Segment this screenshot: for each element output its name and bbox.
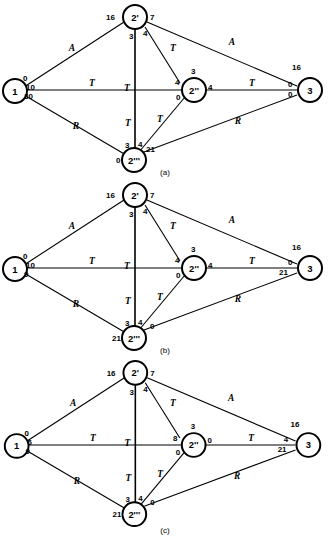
edge-label-n2ppp-n3: R (234, 294, 241, 304)
edge-label-n1-n2pp: T (89, 78, 96, 88)
num-n3-left-lower: 0 (288, 90, 293, 99)
num-n2p-below-left: 3 (129, 32, 134, 41)
num-n3-top: 16 (292, 243, 301, 252)
num-n1-mid: 10 (26, 83, 35, 92)
edge-n2p-n2pp (145, 27, 180, 83)
node-2p-label: 2' (132, 367, 139, 378)
edge-label-n2p-n3: A (228, 215, 235, 225)
edge-label-n1-n2p: A (69, 398, 76, 408)
edge-label-n2ppp-n2pp-vert: T (125, 118, 132, 128)
edge-n1-n2p (24, 22, 124, 87)
num-n2ppp-above-left: 3 (125, 319, 130, 328)
edge-label-n2ppp-n3: R (233, 471, 240, 481)
edge-label-n2pp-n3: T (249, 256, 256, 266)
edge-label-n1-n2ppp: R (72, 121, 79, 131)
edge-label-n2pp-n3: T (249, 78, 256, 88)
num-n2pp-bottom-left: 0 (176, 448, 181, 457)
panel-c: 1 2' 2'' 2''' 3 A T R A T T T T T R 0 6 … (0, 356, 330, 534)
num-n1-bottom: 30 (24, 92, 33, 101)
num-n2p-right: 7 (150, 191, 155, 200)
num-n2pp-top: 3 (191, 422, 196, 431)
edge-n2p-n3 (147, 200, 297, 264)
num-n2ppp-above-left: 3 (125, 495, 130, 504)
num-n2pp-bottom-left: 0 (176, 93, 181, 102)
node-2ppp-label: 2''' (128, 333, 140, 344)
num-n1-top: 0 (25, 429, 30, 438)
num-n2pp-left: 4 (175, 256, 180, 265)
panel-a-caption: (a) (0, 168, 330, 177)
num-n1-mid: 10 (26, 261, 35, 270)
node-3-label: 3 (306, 439, 311, 450)
edge-n1-n2p (26, 378, 125, 442)
edge-label-n2ppp-n2pp-vert: T (126, 473, 133, 483)
edge-label-n2p-n2pp: T (170, 398, 177, 408)
edge-n2ppp-n2pp (139, 452, 184, 506)
num-n2pp-left: 4 (175, 78, 180, 87)
num-n2p-left: 16 (106, 191, 115, 200)
node-3-label: 3 (307, 263, 312, 274)
edge-label-n1-n2p: A (68, 43, 75, 53)
num-n2pp-top: 3 (191, 245, 196, 254)
panel-b-caption: (b) (0, 346, 330, 355)
num-n2p-below-right: 4 (143, 385, 148, 394)
edge-n2p-n2pp (145, 383, 180, 438)
num-n2p-left: 16 (106, 13, 115, 22)
num-n2p-right: 7 (150, 369, 155, 378)
node-2p-label: 2' (131, 190, 139, 201)
num-n1-bottom: 9 (24, 270, 29, 279)
num-n2pp-right: 0 (208, 436, 213, 445)
node-2pp-label: 2'' (189, 85, 199, 96)
num-n2p-below-right: 4 (143, 29, 148, 38)
num-n3-left-upper: 4 (284, 435, 289, 444)
num-n2ppp-above-right: 21 (146, 145, 155, 154)
edge-n2p-n3 (147, 378, 295, 441)
node-2p-label: 2' (131, 12, 139, 23)
num-n2p-below-right: 4 (143, 207, 148, 216)
node-2ppp-label: 2''' (128, 155, 140, 166)
panel-b: 1 2' 2'' 2''' 3 A T R A T T T T T R 0 10… (0, 178, 330, 356)
num-n1-mid: 6 (28, 438, 33, 447)
edge-label-n1-n2ppp: R (73, 476, 80, 486)
edge-label-n1-n2pp: T (90, 433, 97, 443)
edge-label-n2p-n2ppp: T (124, 83, 131, 93)
edge-n2ppp-n3 (144, 273, 297, 330)
num-n3-left-upper: 0 (288, 80, 293, 89)
node-1-label: 1 (12, 86, 18, 97)
edge-label-n2ppp-n3: R (234, 116, 241, 126)
edge-label-n1-n2pp: T (89, 256, 96, 266)
edge-n2ppp-n3 (144, 450, 295, 506)
num-n2pp-bottom-left: 0 (176, 271, 181, 280)
edge-n2p-n2pp (145, 205, 180, 261)
num-n2ppp-above-left: 3 (125, 141, 130, 150)
num-n2pp-right: 4 (208, 83, 213, 92)
num-n2pp-right: 4 (208, 261, 213, 270)
panel-a: 1 2' 2'' 2''' 3 A T R A T T T T T R 0 10… (0, 0, 330, 178)
edge-label-n2p-n2pp: T (170, 43, 177, 53)
node-1-label: 1 (14, 440, 19, 451)
edge-label-n2p-n2ppp: T (124, 261, 131, 271)
edge-label-n1-n2p: A (68, 221, 75, 231)
num-n3-top: 16 (291, 420, 300, 429)
edge-label-n2p-n2pp: T (170, 221, 177, 231)
panel-c-caption: (c) (0, 526, 330, 535)
edge-n2p-n3 (147, 22, 297, 86)
num-n2ppp-left: 0 (116, 156, 121, 165)
num-n2ppp-above-right: 0 (150, 498, 155, 507)
edge-label-n2p-n3: A (228, 37, 235, 47)
num-n3-left-upper: 0 (288, 258, 293, 267)
num-n2ppp-above-mid: 4 (138, 318, 143, 327)
edge-n1-n2p (24, 200, 124, 265)
node-2pp-label: 2'' (189, 263, 199, 274)
num-n2p-below-left: 3 (129, 210, 134, 219)
num-n3-top: 16 (292, 63, 301, 72)
network-flow-figure: 1 2' 2'' 2''' 3 A T R A T T T T T R 0 10… (0, 0, 330, 536)
node-2pp-label: 2'' (189, 439, 199, 450)
num-n2p-left: 16 (107, 369, 116, 378)
num-n2pp-top: 3 (191, 67, 196, 76)
node-3-label: 3 (307, 85, 312, 96)
edge-label-n1-n2ppp: R (72, 299, 79, 309)
edge-n2ppp-n3 (144, 95, 297, 152)
edge-label-n2p-n2ppp: T (125, 438, 132, 448)
num-n2p-right: 7 (150, 13, 155, 22)
edge-label-n2pp-n3: T (248, 433, 255, 443)
